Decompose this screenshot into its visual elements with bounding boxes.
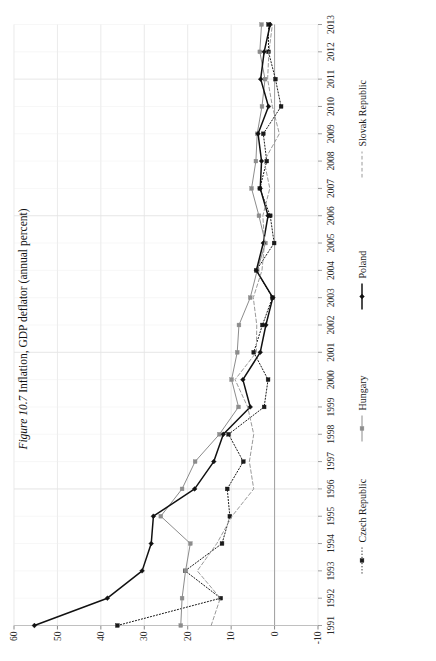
figure-number: Figure 10.7	[16, 395, 28, 449]
series-point	[193, 459, 197, 463]
x-axis-tick-label: 2001	[326, 342, 336, 361]
x-axis-tick-label: 2005	[326, 233, 336, 252]
series-point	[159, 514, 163, 518]
y-axis-tick-label: 0	[270, 631, 280, 636]
series-point	[241, 459, 245, 463]
series-point	[237, 405, 241, 409]
y-axis-tick-label: 10	[226, 631, 236, 641]
series-point	[260, 104, 264, 108]
x-axis-tick-label: 2006	[326, 205, 336, 224]
series-point	[184, 568, 188, 572]
series-point	[218, 432, 222, 436]
x-axis-tick-label: 2011	[326, 69, 336, 88]
figure-caption: Figure 10.7 Inflation, GDP deflator (ann…	[16, 0, 28, 659]
series-line-czech-republic	[117, 24, 281, 625]
series-point	[32, 623, 37, 628]
series-point	[227, 432, 231, 436]
rotated-figure-container: 6050403020100-10199119921993199419951996…	[0, 0, 436, 661]
x-axis-tick-label: 2003	[326, 287, 336, 306]
series-point	[262, 405, 266, 409]
series-point	[179, 623, 183, 627]
series-point	[220, 541, 224, 545]
series-point	[237, 323, 241, 327]
x-axis-tick-label: 2009	[326, 124, 336, 143]
series-point	[274, 77, 278, 81]
y-axis-tick-label: 30	[139, 631, 149, 641]
series-point	[248, 295, 252, 299]
series-point	[252, 350, 256, 354]
x-axis-tick-label: 1995	[326, 506, 336, 525]
legend-marker	[360, 294, 365, 299]
figure-caption-text: Inflation, GDP deflator (annual percent)	[16, 208, 28, 392]
series-point	[254, 159, 258, 163]
legend-label: Slovak Republic	[357, 79, 368, 146]
series-point	[266, 104, 271, 109]
series-point	[263, 77, 267, 81]
series-point	[272, 241, 276, 245]
x-axis-tick-label: 2004	[326, 260, 336, 279]
series-point	[279, 104, 283, 108]
series-point	[259, 158, 264, 163]
legend-marker	[360, 558, 364, 562]
series-point	[230, 377, 234, 381]
x-axis-tick-label: 1994	[326, 533, 336, 552]
series-point	[250, 186, 254, 190]
series-point	[235, 350, 239, 354]
legend-marker	[360, 426, 364, 430]
series-point	[225, 487, 229, 491]
series-point	[262, 49, 267, 54]
legend-label: Czech Republic	[357, 478, 368, 542]
x-axis-tick-label: 1991	[326, 615, 336, 634]
x-axis-tick-label: 2010	[326, 96, 336, 115]
x-axis-tick-label: 2002	[326, 315, 336, 334]
y-axis-tick-label: 20	[183, 631, 193, 641]
series-point	[258, 349, 263, 354]
series-line-hungary	[161, 24, 266, 625]
y-axis-tick-label: 50	[53, 631, 63, 641]
series-point	[188, 541, 192, 545]
x-axis-tick-label: 1998	[326, 424, 336, 443]
x-axis-tick-label: 2008	[326, 151, 336, 170]
x-axis-tick-label: 1993	[326, 561, 336, 580]
x-axis-tick-label: 1992	[326, 588, 336, 607]
series-point	[261, 131, 265, 135]
series-point	[258, 76, 263, 81]
series-point	[260, 22, 264, 26]
series-point	[151, 513, 156, 518]
x-axis-tick-label: 2007	[326, 178, 336, 197]
series-point	[266, 377, 270, 381]
series-point	[115, 623, 119, 627]
series-point	[180, 596, 184, 600]
y-axis-tick-label: 40	[96, 631, 106, 641]
legend-label: Hungary	[357, 375, 368, 410]
y-axis-tick-label: -10	[313, 631, 323, 644]
series-point	[258, 49, 262, 53]
legend-label: Poland	[357, 250, 368, 278]
x-axis-tick-label: 1999	[326, 397, 336, 416]
series-point	[257, 213, 261, 217]
x-axis-tick-label: 1996	[326, 479, 336, 498]
series-point	[180, 487, 184, 491]
line-chart-svg: 6050403020100-10199119921993199419951996…	[0, 0, 436, 661]
series-point	[265, 159, 269, 163]
series-point	[149, 541, 154, 546]
x-axis-tick-label: 1997	[326, 451, 336, 470]
chart-area: 6050403020100-10199119921993199419951996…	[0, 0, 436, 661]
x-axis-tick-label: 2012	[326, 42, 336, 61]
figure-page: 6050403020100-10199119921993199419951996…	[0, 0, 436, 661]
x-axis-tick-label: 2000	[326, 369, 336, 388]
x-axis-tick-label: 2013	[326, 14, 336, 33]
